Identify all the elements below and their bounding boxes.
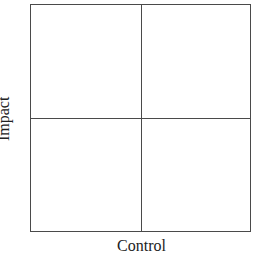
x-axis-label: Control — [0, 237, 253, 255]
y-axis-label: Impact — [0, 97, 13, 141]
horizontal-divider — [30, 118, 251, 119]
